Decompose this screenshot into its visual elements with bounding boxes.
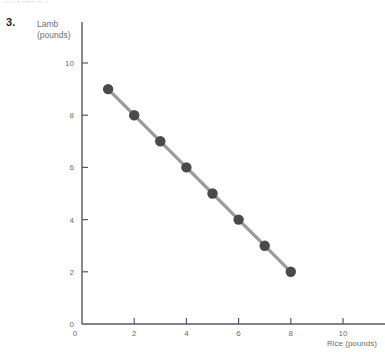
x-tick-label: 6 [236,329,241,338]
x-tick-label: 8 [289,329,294,338]
y-tick-label: 10 [65,59,74,68]
data-point [155,136,165,146]
y-tick-label: 2 [70,268,75,277]
y-tick-label: 8 [70,111,75,120]
y-tick-label: 4 [70,216,75,225]
y-tick-label: 0 [70,320,75,329]
x-tick-label: 10 [339,329,348,338]
y-tick-label: 6 [70,163,75,172]
x-axis-ticks: 0246810 [73,318,348,338]
chart-plot: 0246810 0246810 [0,0,385,352]
data-point [233,214,243,224]
data-point [207,188,217,198]
data-point [181,162,191,172]
y-axis-ticks: 0246810 [65,59,88,329]
data-point [129,110,139,120]
figure-container: CHAPTER 1 3. Lamb (pounds) Rice (pounds)… [0,0,385,352]
x-tick-label: 4 [184,329,189,338]
x-tick-label: 0 [73,329,78,338]
data-point [286,267,296,277]
data-point [260,241,270,251]
data-point [103,84,113,94]
x-tick-label: 2 [132,329,137,338]
